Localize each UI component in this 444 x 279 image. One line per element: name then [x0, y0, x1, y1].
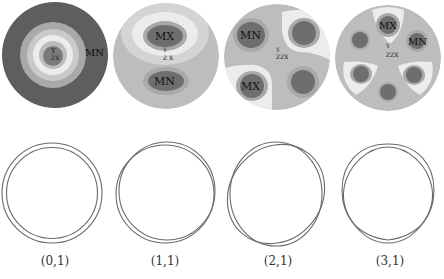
outline-3-1 [342, 144, 434, 243]
contour-lobe [406, 67, 422, 83]
contour-lobe [291, 70, 315, 94]
mode-label-1-1: (1,1) [135, 254, 195, 268]
contour-max-label: MX [155, 30, 174, 43]
contour-max-label: MX [241, 80, 260, 93]
mode-label-2-1: (2,1) [248, 254, 308, 268]
deformed-outline-a [342, 144, 434, 240]
deformed-outline-b [344, 147, 433, 243]
axis-label-zx: ZZX [386, 51, 399, 58]
outline-2-1 [207, 125, 344, 264]
axis-label-zx: Z X [163, 54, 174, 61]
outline-1-1 [116, 142, 215, 243]
axis-label-zx: ZX [51, 54, 60, 61]
deformed-outline-a [207, 125, 344, 264]
deformed-outline [7, 148, 98, 239]
contour-plot-0-1: Y ZX MN [2, 2, 108, 108]
mode-label-0-1: (0,1) [25, 254, 85, 268]
mode-label-3-1: (3,1) [360, 254, 420, 268]
contour-min-label: MN [85, 47, 104, 58]
mode-shape-figure: Y ZX MN MX Y Z X MN MN Y [0, 0, 444, 279]
undeformed-outline [2, 143, 102, 243]
contour-lobe [380, 84, 396, 100]
contour-lobe [352, 32, 368, 48]
outline-0-1 [2, 143, 102, 243]
deformed-outline-b [230, 142, 322, 246]
contour-min-label: MN [154, 75, 175, 88]
contour-max-label: MX [379, 20, 397, 31]
contour-lobe [353, 66, 369, 82]
contour-lobe [292, 21, 316, 45]
axis-label-zx: ZZX [276, 53, 289, 60]
contour-min-label: MN [240, 29, 261, 42]
deformed-outline [119, 142, 215, 240]
contour-min-label: MN [408, 36, 427, 47]
